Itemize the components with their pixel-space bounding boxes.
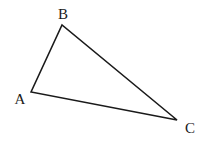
vertex-label-c: C <box>185 120 195 136</box>
triangle-abc <box>31 25 177 120</box>
triangle-diagram: A B C <box>0 0 201 141</box>
vertex-label-a: A <box>15 91 26 107</box>
vertex-label-b: B <box>58 6 68 22</box>
